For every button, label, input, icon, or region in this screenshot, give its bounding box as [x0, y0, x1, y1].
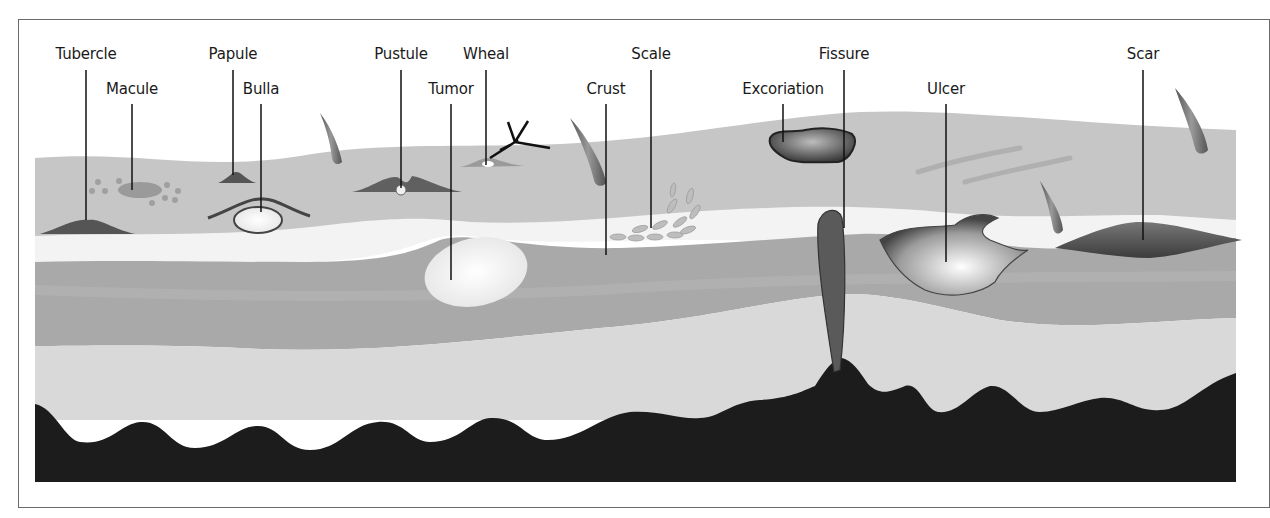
label-papule: Papule [209, 45, 258, 63]
label-excoriation: Excoriation [742, 80, 824, 98]
label-fissure: Fissure [819, 45, 870, 63]
label-ulcer: Ulcer [927, 80, 965, 98]
label-pustule: Pustule [374, 45, 428, 63]
skin-cross-section [0, 0, 1270, 518]
label-scar: Scar [1127, 45, 1159, 63]
label-tubercle: Tubercle [55, 45, 116, 63]
label-wheal: Wheal [463, 45, 509, 63]
label-scale: Scale [631, 45, 670, 63]
label-tumor: Tumor [428, 80, 473, 98]
label-crust: Crust [587, 80, 626, 98]
label-macule: Macule [106, 80, 158, 98]
label-bulla: Bulla [243, 80, 279, 98]
